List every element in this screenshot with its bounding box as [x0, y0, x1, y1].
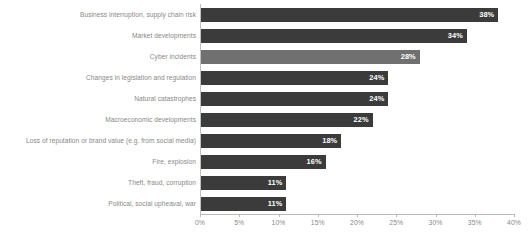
bar-value-label: 24% [369, 95, 388, 102]
category-label: Cyber incidents [0, 53, 200, 61]
category-label: Changes in legislation and regulation [0, 74, 200, 82]
x-axis-tick-mark [200, 214, 201, 217]
bar-track: 18% [200, 130, 526, 151]
x-axis-tick-label: 30% [429, 219, 443, 226]
bar-track: 22% [200, 109, 526, 130]
x-axis-tick-mark [239, 214, 240, 217]
bar-track: 28% [200, 46, 526, 67]
bar-row: Changes in legislation and regulation24% [0, 67, 530, 88]
bar-row: Natural catastrophes24% [0, 88, 530, 109]
category-label: Fire, explosion [0, 158, 200, 166]
bar-row: Market developments34% [0, 25, 530, 46]
category-label: Business interruption, supply chain risk [0, 11, 200, 19]
x-axis-tick-mark [279, 214, 280, 217]
bar: 11% [200, 197, 286, 211]
bar: 22% [200, 113, 373, 127]
category-label: Market developments [0, 32, 200, 40]
bar-value-label: 16% [307, 158, 326, 165]
bar-row: Fire, explosion16% [0, 151, 530, 172]
bar-value-label: 18% [322, 137, 341, 144]
bar-rows: Business interruption, supply chain risk… [0, 4, 530, 214]
bar-row: Business interruption, supply chain risk… [0, 4, 530, 25]
x-axis-tick-mark [396, 214, 397, 217]
bar-row: Political, social upheaval, war11% [0, 193, 530, 214]
category-label: Natural catastrophes [0, 95, 200, 103]
bar-track: 38% [200, 4, 526, 25]
x-axis-tick-label: 20% [350, 219, 364, 226]
bar-track: 24% [200, 88, 526, 109]
axis-zero-line [200, 4, 201, 215]
x-axis-tick-mark [514, 214, 515, 217]
bar-row: Loss of reputation or brand value (e.g. … [0, 130, 530, 151]
bar-value-label: 38% [479, 11, 498, 18]
bar-track: 16% [200, 151, 526, 172]
x-axis-tick-label: 0% [195, 219, 205, 226]
bar-row: Cyber incidents28% [0, 46, 530, 67]
category-label: Loss of reputation or brand value (e.g. … [0, 137, 200, 145]
bar-row: Macroeconomic developments22% [0, 109, 530, 130]
bar: 18% [200, 134, 341, 148]
x-axis-tick-mark [436, 214, 437, 217]
bar-value-label: 34% [448, 32, 467, 39]
bar-value-label: 22% [354, 116, 373, 123]
bar-track: 11% [200, 193, 526, 214]
category-label: Political, social upheaval, war [0, 200, 200, 208]
bar-value-label: 24% [369, 74, 388, 81]
x-axis-tick-mark [357, 214, 358, 217]
bar-value-label: 11% [268, 179, 287, 186]
x-axis-tick-label: 10% [272, 219, 286, 226]
category-label: Theft, fraud, corruption [0, 179, 200, 187]
bar-track: 24% [200, 67, 526, 88]
x-axis-tick-label: 5% [234, 219, 244, 226]
bar-value-label: 11% [268, 200, 287, 207]
bar: 34% [200, 29, 467, 43]
horizontal-bar-chart: Business interruption, supply chain risk… [0, 0, 530, 240]
x-axis-tick-label: 35% [468, 219, 482, 226]
bar: 38% [200, 8, 498, 22]
bar: 16% [200, 155, 326, 169]
bar: 24% [200, 92, 388, 106]
bar: 28% [200, 50, 420, 64]
bar-value-label: 28% [401, 53, 420, 60]
x-axis-tick-label: 15% [311, 219, 325, 226]
bar-track: 34% [200, 25, 526, 46]
x-axis-tick-label: 40% [507, 219, 521, 226]
category-label: Macroeconomic developments [0, 116, 200, 124]
x-axis-tick-label: 25% [389, 219, 403, 226]
bar-track: 11% [200, 172, 526, 193]
x-axis-tick-mark [318, 214, 319, 217]
bar: 11% [200, 176, 286, 190]
bar: 24% [200, 71, 388, 85]
x-axis-tick-mark [475, 214, 476, 217]
bar-row: Theft, fraud, corruption11% [0, 172, 530, 193]
